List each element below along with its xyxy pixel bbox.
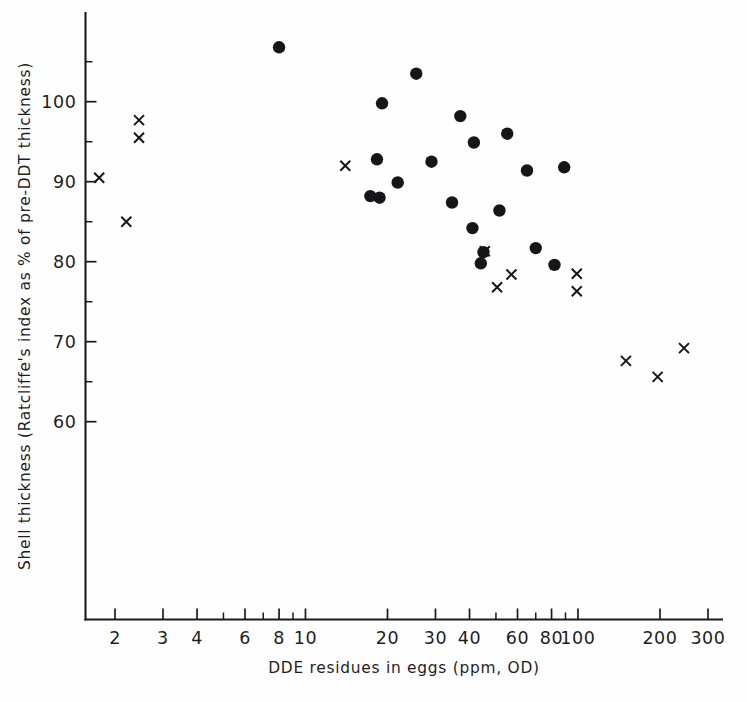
data-point-cross xyxy=(134,115,144,125)
y-tick-label: 90 xyxy=(53,172,76,192)
plot-canvas: 60708090100 23468102030406080100200300 D… xyxy=(0,0,747,702)
x-tick-label: 40 xyxy=(458,628,481,648)
x-tick-label: 100 xyxy=(560,628,595,648)
y-tick-label: 60 xyxy=(53,412,76,432)
data-point-cross xyxy=(492,282,502,292)
x-tick-label: 60 xyxy=(506,628,529,648)
x-axis-ticks xyxy=(115,609,708,620)
data-point-circle xyxy=(410,68,422,80)
x-tick-label: 2 xyxy=(109,628,121,648)
data-point-circle xyxy=(475,257,487,269)
x-axis-tick-labels: 23468102030406080100200300 xyxy=(109,628,725,648)
x-tick-label: 4 xyxy=(191,628,203,648)
series-filled-circle xyxy=(273,41,571,271)
data-point-cross xyxy=(506,270,516,280)
x-tick-label: 300 xyxy=(690,628,725,648)
y-tick-label: 100 xyxy=(41,92,76,112)
data-point-circle xyxy=(468,136,480,148)
y-axis-ticks xyxy=(86,62,97,422)
data-point-circle xyxy=(466,222,478,234)
data-point-circle xyxy=(493,204,505,216)
x-tick-label: 6 xyxy=(239,628,251,648)
data-point-circle xyxy=(501,128,513,140)
data-point-circle xyxy=(521,164,533,176)
x-tick-label: 20 xyxy=(376,628,399,648)
y-axis-title: Shell thickness (Ratcliffe's index as % … xyxy=(16,62,34,570)
data-point-circle xyxy=(530,242,542,254)
data-point-circle xyxy=(425,156,437,168)
data-point-circle xyxy=(376,97,388,109)
data-point-circle xyxy=(371,153,383,165)
x-tick-label: 3 xyxy=(157,628,169,648)
data-point-circle xyxy=(446,196,458,208)
x-tick-label: 8 xyxy=(273,628,285,648)
data-point-cross xyxy=(340,161,350,171)
series-cross xyxy=(94,115,689,382)
axis-lines xyxy=(86,13,723,620)
y-tick-label: 80 xyxy=(53,252,76,272)
data-point-circle xyxy=(273,41,285,53)
data-point-circle xyxy=(373,192,385,204)
x-axis-title: DDE residues in eggs (ppm, OD) xyxy=(268,659,540,677)
data-point-cross xyxy=(94,173,104,183)
data-point-circle xyxy=(454,110,466,122)
data-point-cross xyxy=(121,217,131,227)
x-tick-label: 10 xyxy=(294,628,317,648)
data-point-cross xyxy=(679,343,689,353)
data-point-circle xyxy=(548,259,560,271)
data-point-cross xyxy=(572,269,582,279)
x-tick-label: 30 xyxy=(424,628,447,648)
y-axis-tick-labels: 60708090100 xyxy=(41,92,76,432)
data-markers xyxy=(94,41,689,382)
data-point-cross xyxy=(572,286,582,296)
scatter-plot-figure: 60708090100 23468102030406080100200300 D… xyxy=(0,0,747,702)
x-tick-label: 200 xyxy=(642,628,677,648)
data-point-cross xyxy=(653,372,663,382)
data-point-circle xyxy=(558,161,570,173)
y-tick-label: 70 xyxy=(53,332,76,352)
data-point-circle xyxy=(392,176,404,188)
data-point-cross xyxy=(621,356,631,366)
data-point-cross xyxy=(134,133,144,143)
